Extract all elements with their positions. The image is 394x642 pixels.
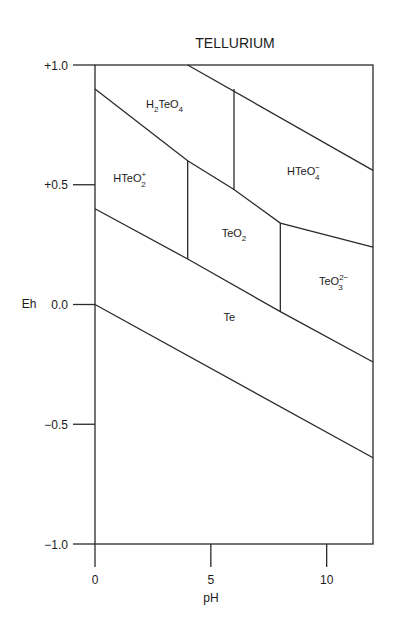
y-tick-label: −0.5 — [44, 418, 68, 432]
y-axis: +1.0+0.50.0−0.5−1.0 — [44, 59, 95, 552]
y-tick-label: −1.0 — [44, 538, 68, 552]
region-labels: H2TeO4HTeO+2HTeO−4TeO2TeO2−3Te — [113, 98, 348, 323]
y-tick-label: 0.0 — [51, 298, 68, 312]
chart-title: TELLURIUM — [195, 35, 274, 51]
y-tick-label: +0.5 — [44, 178, 68, 192]
region-label: HTeO−4 — [287, 163, 320, 182]
x-axis-label: pH — [203, 591, 218, 605]
x-axis: 0510 — [92, 544, 334, 587]
x-tick-label: 0 — [92, 573, 99, 587]
y-tick-label: +1.0 — [44, 59, 68, 73]
phase-boundaries — [95, 65, 373, 458]
pourbaix-diagram: TELLURIUM +1.0+0.50.0−0.5−1.0 0510 pH Eh… — [0, 0, 394, 642]
boundary-line — [188, 65, 373, 170]
x-tick-label: 10 — [320, 573, 334, 587]
boundary-line — [95, 305, 373, 458]
region-label: HTeO+2 — [113, 170, 146, 189]
region-label: Te — [224, 311, 236, 323]
region-label: TeO2−3 — [319, 273, 349, 292]
y-axis-label: Eh — [22, 297, 37, 311]
x-tick-label: 5 — [207, 573, 214, 587]
region-label: TeO2 — [222, 227, 247, 243]
region-label: H2TeO4 — [146, 98, 184, 114]
